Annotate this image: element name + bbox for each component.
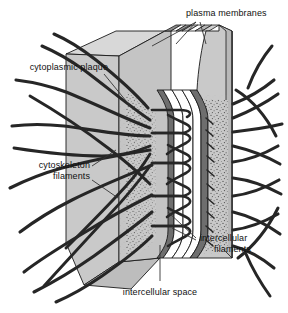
label-cytoskeleton-filaments-line2: filaments (2, 171, 90, 182)
label-cytoplasmic-plaque: cytoplasmic plaque (8, 62, 108, 73)
label-plasma-membranes: plasma membranes (186, 8, 267, 19)
label-intercellular-space: intercellular space (100, 287, 220, 298)
desmosome-diagram: plasma membranes cytoplasmic plaque cyto… (0, 0, 288, 313)
label-intercellular-filaments-line2: filaments (214, 244, 251, 255)
diagram-canvas (0, 0, 288, 313)
label-intercellular-filaments-line1: intercellular (200, 233, 247, 244)
label-cytoskeleton-filaments-line1: cytoskeleton (2, 160, 90, 171)
